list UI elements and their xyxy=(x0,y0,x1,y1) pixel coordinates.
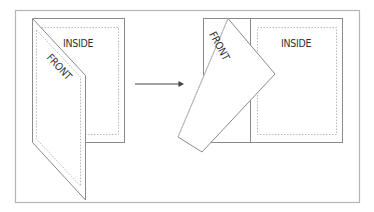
left-inside-label: INSIDE xyxy=(63,37,93,49)
card-fold-diagram: INSIDE FRONT INSIDE FRONT xyxy=(0,0,374,212)
right-inside-label: INSIDE xyxy=(281,37,311,49)
